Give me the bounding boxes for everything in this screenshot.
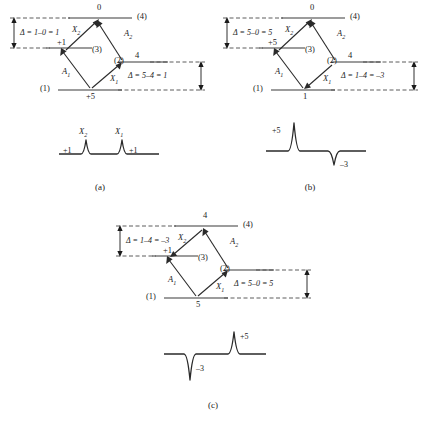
level-4-tag: (4): [350, 12, 360, 21]
level-2-tag: (2): [114, 56, 124, 65]
transition-label-x1: X1: [216, 282, 224, 293]
transition-label-a2: A2: [124, 29, 132, 40]
transition-label-x2: X2: [72, 25, 80, 36]
delta-left-label: Δ = 1–4 = –3: [126, 237, 169, 245]
transition-label-a1: A1: [168, 275, 176, 286]
transition-x1-head: [304, 83, 311, 89]
caption-b: (b): [290, 182, 330, 192]
level-2-tag: (2): [327, 56, 337, 65]
delta-left-label: Δ = 5–0 = 5: [233, 29, 272, 37]
transition-label-x1: X1: [323, 74, 331, 85]
level-3-value: +5: [268, 38, 277, 47]
peak-2-label: X1: [115, 126, 123, 138]
level-3-value: +1: [57, 38, 66, 47]
energy-level-diagram-b: 0 (4) +5 (3) 4 (2) 1 (1) X2 A2 A1 X1 Δ =…: [213, 0, 426, 110]
level-1-value: 1: [303, 92, 307, 101]
level-2-value: 4: [348, 51, 352, 60]
peak-2-value: –3: [340, 160, 348, 169]
spectrum-c-curve: [164, 332, 266, 380]
level-1-tag: (1): [40, 84, 50, 93]
transition-label-a2: A2: [337, 29, 345, 40]
transition-label-a2: A2: [230, 237, 238, 248]
peak-2-value: +5: [240, 332, 249, 341]
spectrum-c: –3 +5: [160, 330, 290, 392]
transition-label-x2: X2: [178, 233, 186, 244]
peak-1-value: –3: [196, 364, 204, 373]
level-1-tag: (1): [146, 292, 156, 301]
diagram-a-lines: [0, 0, 213, 110]
level-4-tag: (4): [137, 12, 147, 21]
level-3-tag: (3): [305, 45, 315, 54]
delta-right-label: Δ = 1–4 = –3: [341, 72, 384, 80]
transition-a2-head: [202, 228, 208, 236]
figure-root: 0 (4) +1 (3) 4 (2) +5 (1) X2 A2 A1 X1 Δ …: [0, 0, 426, 427]
transition-a2-head: [309, 20, 315, 28]
peak-1-value: +5: [272, 126, 281, 135]
energy-level-diagram-c: 4 (4) +1 (3) (2) 5 (1) X2 A2 A1 X1 Δ = 1…: [106, 208, 319, 318]
peak-2-value: +1: [129, 146, 138, 155]
spectrum-c-trace: [160, 330, 290, 392]
level-4-value: 0: [310, 3, 314, 12]
caption-c: (c): [193, 400, 233, 410]
diagram-b-lines: [213, 0, 426, 110]
level-1-tag: (1): [253, 84, 263, 93]
peak-1-value: +1: [63, 146, 72, 155]
delta-right-label: Δ = 5–0 = 5: [234, 280, 273, 288]
energy-level-diagram-a: 0 (4) +1 (3) 4 (2) +5 (1) X2 A2 A1 X1 Δ …: [0, 0, 213, 110]
spectrum-a-curve: [59, 140, 159, 154]
level-4-tag: (4): [243, 220, 253, 229]
level-3-value: +1: [163, 246, 172, 255]
transition-label-a1: A1: [275, 67, 283, 78]
level-1-value: 5: [196, 300, 200, 309]
delta-right-label: Δ = 5–4 = 1: [128, 72, 167, 80]
transition-label-x2: X2: [285, 25, 293, 36]
level-1-value: +5: [86, 92, 95, 101]
spectrum-a-trace: [55, 120, 170, 165]
spectrum-b-curve: [266, 123, 366, 165]
transition-label-x1: X1: [110, 74, 118, 85]
level-2-tag: (2): [220, 264, 230, 273]
delta-left-label: Δ = 1–0 = 1: [20, 29, 59, 37]
transition-label-a1: A1: [62, 67, 70, 78]
spectrum-b: +5 –3: [262, 118, 382, 180]
level-3-tag: (3): [198, 253, 208, 262]
level-4-value: 0: [97, 3, 101, 12]
diagram-c-lines: [106, 208, 319, 318]
caption-a: (a): [80, 182, 120, 192]
spectrum-a: +1 X2 +1 X1: [55, 120, 170, 165]
level-4-value: 4: [203, 211, 207, 220]
transition-a2-head: [96, 20, 102, 28]
peak-1-label: X2: [79, 126, 87, 138]
level-2-value: 4: [135, 51, 139, 60]
level-3-tag: (3): [92, 45, 102, 54]
